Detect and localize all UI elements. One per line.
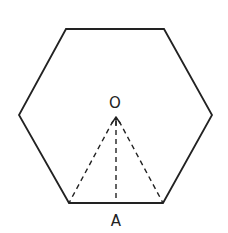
midpoint-label-a: A (111, 214, 121, 229)
dashed-line-O-to-left-bottom-vertex (69, 121, 113, 203)
center-label-o: O (109, 96, 121, 111)
dashed-radii (69, 121, 163, 203)
arrowhead-icon (112, 117, 120, 125)
dashed-line-O-to-right-bottom-vertex (119, 121, 163, 203)
hexagon-diagram (0, 0, 228, 233)
